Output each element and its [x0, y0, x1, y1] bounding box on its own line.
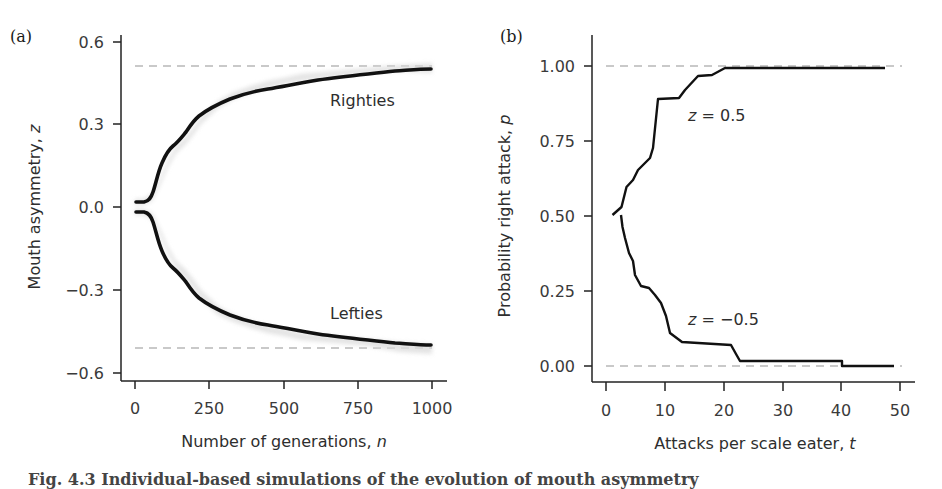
a-xtick-label: 750 — [343, 399, 374, 418]
lefties-band — [135, 209, 432, 354]
a-ytick-label: −0.6 — [65, 364, 104, 383]
righties-band — [135, 63, 432, 205]
b-xtick-label: 10 — [655, 401, 675, 420]
panel-a-label: (a) — [10, 27, 32, 46]
b-ytick-label: 0.25 — [539, 282, 575, 301]
lefties-annotation: Lefties — [330, 304, 383, 323]
lefties-line — [136, 212, 431, 345]
righties-line — [136, 69, 431, 202]
b-y-tick-labels: 1.00 0.75 0.50 0.25 0.00 — [539, 57, 575, 376]
a-xtick-label: 500 — [269, 399, 300, 418]
figure-caption: Fig. 4.3 Individual-based simulations of… — [28, 470, 699, 489]
a-ytick-label: 0.0 — [79, 198, 104, 217]
a-y-axis-label: Mouth asymmetry, z — [25, 124, 44, 289]
panel-b: (b) 1.00 0.75 0.50 0.25 0.00 — [495, 27, 915, 453]
a-ytick-label: 0.6 — [79, 33, 104, 52]
a-x-tick-labels: 0 250 500 750 1000 — [130, 399, 452, 418]
b-ytick-label: 0.75 — [539, 132, 575, 151]
panel-b-label: (b) — [500, 27, 523, 46]
b-x-tick-labels: 0 10 20 30 40 50 — [601, 401, 910, 420]
a-ytick-label: −0.3 — [65, 281, 104, 300]
b-xtick-label: 0 — [601, 401, 611, 420]
b-x-axis-label: Attacks per scale eater, t — [654, 434, 856, 453]
z-positive-line — [613, 68, 886, 215]
b-xtick-label: 40 — [831, 401, 851, 420]
righties-annotation: Righties — [330, 91, 395, 110]
z-negative-annotation: z = −0.5 — [687, 310, 759, 329]
a-xtick-label: 1000 — [412, 399, 453, 418]
a-ytick-label: 0.3 — [79, 115, 104, 134]
b-y-ticks — [584, 66, 592, 366]
z-negative-line — [621, 215, 894, 366]
b-ytick-label: 0.50 — [539, 207, 575, 226]
a-xtick-label: 250 — [194, 399, 225, 418]
a-y-ticks — [113, 42, 121, 373]
b-x-ticks — [606, 382, 900, 391]
b-xtick-label: 30 — [773, 401, 793, 420]
a-x-ticks — [135, 381, 432, 389]
panel-a: (a) 0.6 0.3 0.0 −0.3 −0.6 — [10, 27, 452, 451]
b-y-axis-label: Probability right attack, p — [495, 115, 514, 318]
a-y-tick-labels: 0.6 0.3 0.0 −0.3 −0.6 — [65, 33, 104, 383]
b-ytick-label: 1.00 — [539, 57, 575, 76]
b-xtick-label: 50 — [890, 401, 910, 420]
b-xtick-label: 20 — [714, 401, 734, 420]
z-positive-annotation: z = 0.5 — [687, 106, 745, 125]
b-ytick-label: 0.00 — [539, 357, 575, 376]
a-xtick-label: 0 — [130, 399, 140, 418]
a-x-axis-label: Number of generations, n — [181, 432, 387, 451]
